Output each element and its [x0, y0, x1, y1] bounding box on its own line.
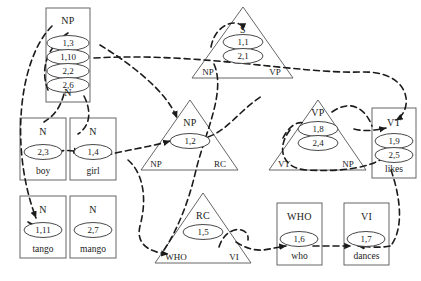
vi-category: VI [344, 212, 389, 222]
triangle-vp-right-base: NP [336, 160, 360, 169]
triangle-s-category: S [223, 25, 263, 35]
link-rc-to-who [236, 242, 286, 250]
triangle-rc-category: RC [183, 211, 223, 221]
triangle-np-category: NP [170, 118, 210, 128]
triangle-rc-left-base: WHO [160, 253, 192, 262]
triangle-s-right-base: VP [263, 68, 287, 77]
n-tango-oval-label: 1,11 [24, 226, 62, 235]
n-mango-oval-label: 2,7 [74, 226, 112, 235]
np-top-oval-2-label: 1,10 [47, 53, 89, 62]
np-top-category: NP [46, 16, 90, 26]
link-into-vt19 [354, 128, 386, 131]
triangle-np-oval-label: 1,2 [171, 137, 209, 146]
link-to-rc15 [128, 160, 168, 254]
link-vp-up-vt [332, 106, 372, 126]
link-nptop-to-vp [100, 45, 177, 118]
triangle-vp-category: VP [298, 108, 338, 118]
who-oval-label: 1,6 [280, 235, 318, 244]
who-category: WHO [277, 212, 322, 222]
n-girl-oval-label: 1,4 [74, 148, 112, 157]
vi-word: dances [344, 252, 389, 262]
np-top-oval-1-label: 1,3 [47, 39, 89, 48]
n-mango-category: N [70, 205, 116, 215]
triangle-rc-right-base: VI [222, 253, 246, 262]
np-top-oval-3-label: 2,2 [47, 67, 89, 76]
n-tango-word: tango [20, 245, 66, 255]
n-girl-word: girl [70, 167, 116, 177]
triangle-np-left-base: NP [144, 160, 168, 169]
link-s-down-rc [164, 64, 218, 250]
np-top-word: N [46, 88, 90, 98]
who-word: who [277, 252, 322, 262]
triangle-rc-oval-label: 1,5 [184, 228, 222, 237]
triangle-s-oval-1-label: 1,1 [224, 38, 262, 47]
vt-word: likes [372, 165, 416, 175]
link-vt-down-vi [391, 170, 399, 244]
n-boy-word: boy [20, 167, 66, 177]
triangle-vp-left-base: VT [272, 160, 296, 169]
vi-oval-label: 1,7 [347, 235, 385, 244]
n-girl-category: N [70, 127, 116, 137]
triangle-np-right-base: RC [208, 160, 232, 169]
triangle-vp-oval-1-label: 1,8 [299, 125, 337, 134]
link-nptop-to-vt [94, 57, 406, 120]
vt-oval-2-label: 2,5 [375, 151, 413, 160]
parse-forest-diagram: NP 1,3 1,10 2,2 2,6 N N 2,3 boy N 1,4 gi… [0, 0, 421, 281]
n-boy-oval-label: 2,3 [24, 148, 62, 157]
triangle-vp-oval-2-label: 2,4 [299, 139, 337, 148]
vt-oval-1-label: 1,9 [375, 137, 413, 146]
n-mango-word: mango [70, 245, 116, 255]
vt-category: VT [372, 118, 416, 128]
n-boy-category: N [20, 127, 66, 137]
n-tango-category: N [20, 205, 66, 215]
triangle-s-oval-2-label: 2,1 [224, 52, 262, 61]
triangle-s-left-base: NP [196, 68, 220, 77]
link-np12-right [208, 96, 262, 137]
